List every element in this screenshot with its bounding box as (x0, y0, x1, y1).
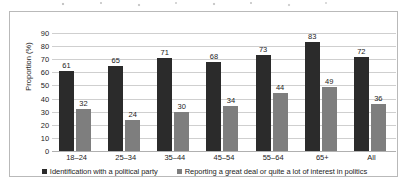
legend-label: Reporting a great deal or quite a lot of… (185, 167, 367, 176)
bar-group: 7236 (347, 33, 396, 151)
plot-area: 6132652471306834734483497236 (52, 33, 396, 151)
scan-speckle-artifact (0, 0, 406, 9)
x-tick-label: 25–34 (101, 153, 150, 162)
y-tick-label: 80 (41, 42, 49, 51)
y-tick-label: 0 (45, 147, 49, 156)
x-tick-label: 18–24 (52, 153, 101, 162)
y-tick-label: 40 (41, 94, 49, 103)
legend-label: Identification with a political party (50, 167, 158, 176)
bar: 71 (157, 58, 172, 151)
bar-group: 6132 (52, 33, 101, 151)
bar: 32 (76, 109, 91, 151)
y-tick-label: 20 (41, 120, 49, 129)
bar-value-label: 36 (374, 94, 382, 103)
y-tick-label: 90 (41, 29, 49, 38)
x-tick-label: All (347, 153, 396, 162)
bar: 83 (305, 42, 320, 151)
bar-value-label: 73 (259, 45, 267, 54)
bar: 44 (273, 93, 288, 151)
bar: 30 (174, 112, 189, 151)
bar: 72 (354, 57, 369, 151)
x-tick-label: 55–64 (249, 153, 298, 162)
bar-value-label: 32 (79, 99, 87, 108)
y-tick-label: 30 (41, 107, 49, 116)
y-tick-label: 10 (41, 133, 49, 142)
bar-value-label: 61 (62, 61, 70, 70)
bar-value-label: 24 (128, 110, 136, 119)
bar: 36 (371, 104, 386, 151)
legend-entry[interactable]: Reporting a great deal or quite a lot of… (177, 167, 367, 176)
bar: 61 (59, 71, 74, 151)
x-tick-label: 45–54 (199, 153, 248, 162)
bar-group: 7130 (150, 33, 199, 151)
y-axis-tick-labels: 0102030405060708090 (28, 33, 49, 151)
bars-layer: 6132652471306834734483497236 (52, 33, 396, 151)
bar-value-label: 72 (357, 47, 365, 56)
y-tick-label: 70 (41, 55, 49, 64)
bar-value-label: 65 (111, 56, 119, 65)
bar-group: 8349 (298, 33, 347, 151)
bar: 73 (256, 55, 271, 151)
bar-value-label: 49 (325, 77, 333, 86)
bar: 68 (206, 62, 221, 151)
legend-swatch-icon (177, 169, 182, 174)
bar-value-label: 44 (276, 83, 284, 92)
bar-value-label: 34 (227, 96, 235, 105)
bar-group: 6524 (101, 33, 150, 151)
legend-entry[interactable]: Identification with a political party (42, 167, 158, 176)
legend-swatch-icon (42, 169, 47, 174)
bar-value-label: 71 (161, 48, 169, 57)
chart-legend: Identification with a political partyRep… (10, 167, 399, 176)
bar: 65 (108, 66, 123, 151)
bar-value-label: 30 (178, 102, 186, 111)
bar-group: 7344 (249, 33, 298, 151)
bar: 49 (322, 87, 337, 151)
bar-group: 6834 (199, 33, 248, 151)
bar: 24 (125, 120, 140, 151)
x-tick-label: 65+ (298, 153, 347, 162)
bar-value-label: 83 (308, 32, 316, 41)
y-tick-label: 60 (41, 68, 49, 77)
chart-figure: Proportion (%) 0102030405060708090 61326… (9, 11, 398, 177)
bar-value-label: 68 (210, 52, 218, 61)
gridline (52, 151, 396, 152)
bar: 34 (223, 106, 238, 151)
x-axis-tick-labels: 18–2425–3435–4445–5455–6465+All (52, 153, 396, 165)
x-tick-label: 35–44 (150, 153, 199, 162)
y-tick-label: 50 (41, 81, 49, 90)
